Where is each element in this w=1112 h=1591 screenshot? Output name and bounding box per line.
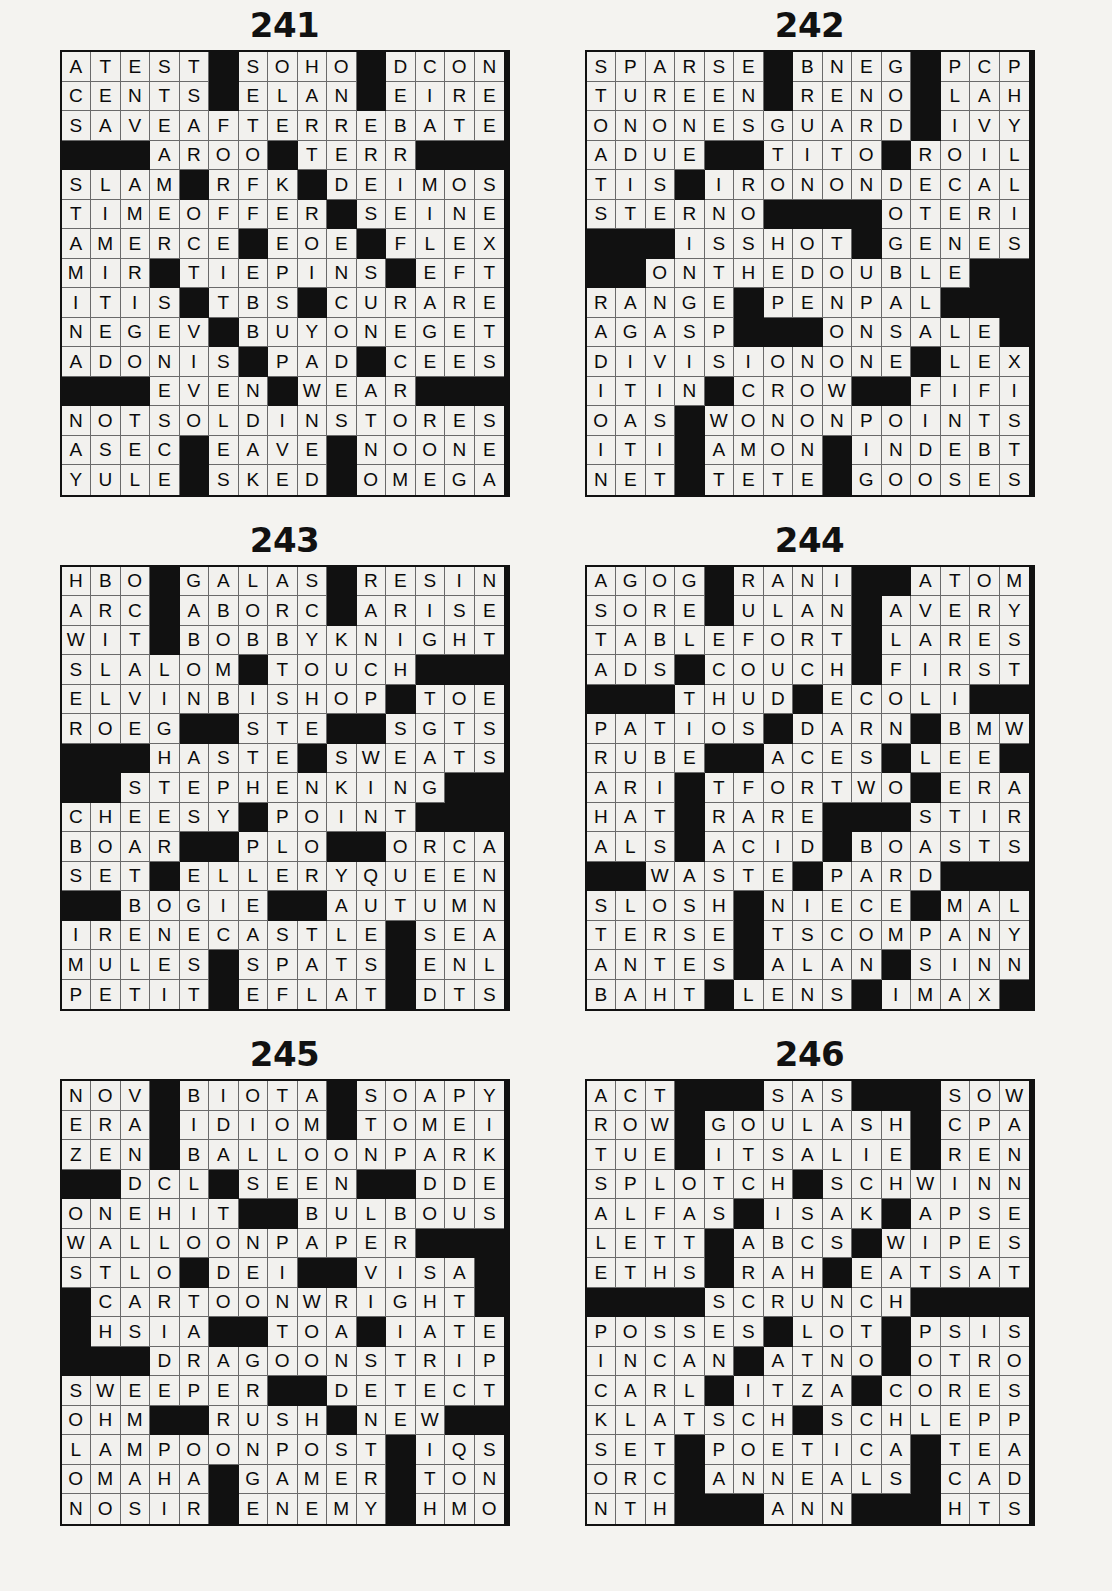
crossword-letter-cell[interactable]: G [121, 318, 151, 348]
crossword-letter-cell[interactable]: S [268, 685, 298, 715]
crossword-letter-cell[interactable]: P [209, 773, 239, 803]
crossword-letter-cell[interactable]: F [209, 111, 239, 141]
crossword-letter-cell[interactable]: R [941, 1140, 971, 1170]
crossword-letter-cell[interactable]: E [941, 259, 971, 289]
crossword-letter-cell[interactable]: P [970, 1111, 1000, 1141]
crossword-letter-cell[interactable]: L [180, 1170, 210, 1200]
crossword-letter-cell[interactable]: O [675, 1170, 705, 1200]
crossword-letter-cell[interactable]: S [734, 714, 764, 744]
crossword-letter-cell[interactable]: E [416, 347, 446, 377]
crossword-letter-cell[interactable]: O [445, 685, 475, 715]
crossword-letter-cell[interactable]: A [239, 921, 269, 951]
crossword-letter-cell[interactable]: A [121, 170, 151, 200]
crossword-letter-cell[interactable]: L [239, 567, 269, 597]
crossword-letter-cell[interactable]: E [268, 465, 298, 495]
crossword-letter-cell[interactable]: R [675, 200, 705, 230]
crossword-letter-cell[interactable]: T [587, 921, 617, 951]
crossword-letter-cell[interactable]: O [764, 436, 794, 466]
crossword-letter-cell[interactable]: A [675, 1347, 705, 1377]
crossword-letter-cell[interactable]: E [970, 465, 1000, 495]
crossword-letter-cell[interactable]: S [646, 1317, 676, 1347]
crossword-letter-cell[interactable]: I [646, 377, 676, 407]
crossword-letter-cell[interactable]: O [764, 347, 794, 377]
crossword-letter-cell[interactable]: E [941, 436, 971, 466]
crossword-letter-cell[interactable]: R [298, 200, 328, 230]
crossword-letter-cell[interactable]: T [675, 980, 705, 1010]
crossword-letter-cell[interactable]: N [475, 891, 505, 921]
crossword-letter-cell[interactable]: E [764, 980, 794, 1010]
crossword-letter-cell[interactable]: I [386, 170, 416, 200]
crossword-letter-cell[interactable]: R [734, 1258, 764, 1288]
crossword-letter-cell[interactable]: V [180, 377, 210, 407]
crossword-letter-cell[interactable]: T [675, 685, 705, 715]
crossword-letter-cell[interactable]: N [852, 347, 882, 377]
crossword-letter-cell[interactable]: R [357, 1465, 387, 1495]
crossword-letter-cell[interactable]: O [298, 832, 328, 862]
crossword-letter-cell[interactable]: N [268, 1494, 298, 1524]
crossword-letter-cell[interactable]: E [150, 465, 180, 495]
crossword-letter-cell[interactable]: N [121, 1140, 151, 1170]
crossword-letter-cell[interactable]: N [675, 259, 705, 289]
crossword-letter-cell[interactable]: R [91, 596, 121, 626]
crossword-letter-cell[interactable]: O [882, 82, 912, 112]
crossword-letter-cell[interactable]: A [587, 318, 617, 348]
crossword-letter-cell[interactable]: H [91, 803, 121, 833]
crossword-letter-cell[interactable]: E [121, 436, 151, 466]
crossword-letter-cell[interactable]: M [91, 1465, 121, 1495]
crossword-letter-cell[interactable]: T [445, 1288, 475, 1318]
crossword-letter-cell[interactable]: O [882, 406, 912, 436]
crossword-letter-cell[interactable]: S [852, 744, 882, 774]
crossword-letter-cell[interactable]: E [475, 288, 505, 318]
crossword-letter-cell[interactable]: A [62, 229, 92, 259]
crossword-letter-cell[interactable]: S [91, 436, 121, 466]
crossword-letter-cell[interactable]: T [941, 803, 971, 833]
crossword-letter-cell[interactable]: S [587, 200, 617, 230]
crossword-letter-cell[interactable]: Q [445, 1435, 475, 1465]
crossword-letter-cell[interactable]: S [327, 744, 357, 774]
crossword-letter-cell[interactable]: B [209, 685, 239, 715]
crossword-letter-cell[interactable]: S [239, 52, 269, 82]
crossword-letter-cell[interactable]: E [475, 596, 505, 626]
crossword-letter-cell[interactable]: C [823, 921, 853, 951]
crossword-letter-cell[interactable]: A [675, 1199, 705, 1229]
crossword-letter-cell[interactable]: E [357, 111, 387, 141]
crossword-letter-cell[interactable]: L [1000, 141, 1030, 171]
crossword-letter-cell[interactable]: E [793, 465, 823, 495]
crossword-letter-cell[interactable]: P [970, 1406, 1000, 1436]
crossword-letter-cell[interactable]: T [416, 1465, 446, 1495]
crossword-letter-cell[interactable]: I [386, 1258, 416, 1288]
crossword-letter-cell[interactable]: G [616, 318, 646, 348]
crossword-letter-cell[interactable]: L [911, 1406, 941, 1436]
crossword-letter-cell[interactable]: T [239, 744, 269, 774]
crossword-letter-cell[interactable]: L [616, 1406, 646, 1436]
crossword-letter-cell[interactable]: S [705, 52, 735, 82]
crossword-letter-cell[interactable]: O [298, 229, 328, 259]
crossword-letter-cell[interactable]: O [764, 773, 794, 803]
crossword-grid[interactable]: SPARSEBNEGPCPTUREENRENOLAHONONESGUARDIVY… [585, 50, 1035, 497]
crossword-letter-cell[interactable]: A [298, 82, 328, 112]
crossword-letter-cell[interactable]: S [646, 655, 676, 685]
crossword-letter-cell[interactable]: H [764, 1406, 794, 1436]
crossword-letter-cell[interactable]: U [616, 744, 646, 774]
crossword-letter-cell[interactable]: S [764, 1081, 794, 1111]
crossword-letter-cell[interactable]: S [587, 891, 617, 921]
crossword-letter-cell[interactable]: M [882, 921, 912, 951]
crossword-letter-cell[interactable]: C [209, 921, 239, 951]
crossword-letter-cell[interactable]: N [616, 111, 646, 141]
crossword-letter-cell[interactable]: A [970, 170, 1000, 200]
crossword-letter-cell[interactable]: P [327, 1229, 357, 1259]
crossword-letter-cell[interactable]: T [823, 229, 853, 259]
crossword-letter-cell[interactable]: I [180, 347, 210, 377]
crossword-letter-cell[interactable]: O [823, 1317, 853, 1347]
crossword-letter-cell[interactable]: G [416, 773, 446, 803]
crossword-letter-cell[interactable]: H [882, 1170, 912, 1200]
crossword-letter-cell[interactable]: A [616, 1376, 646, 1406]
crossword-letter-cell[interactable]: C [970, 52, 1000, 82]
crossword-letter-cell[interactable]: E [416, 950, 446, 980]
crossword-letter-cell[interactable]: E [239, 891, 269, 921]
crossword-letter-cell[interactable]: I [793, 891, 823, 921]
crossword-letter-cell[interactable]: P [445, 1081, 475, 1111]
crossword-letter-cell[interactable]: A [587, 773, 617, 803]
crossword-letter-cell[interactable]: L [91, 685, 121, 715]
crossword-letter-cell[interactable]: O [911, 465, 941, 495]
